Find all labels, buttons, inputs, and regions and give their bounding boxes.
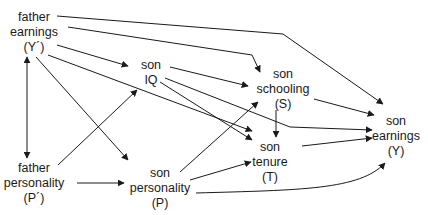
node-son-earnings: son earnings (Y) (372, 114, 420, 159)
node-label-line: son (252, 140, 287, 155)
node-label-line: personality (130, 181, 190, 196)
node-label-line: IQ (141, 73, 161, 88)
node-label-line: father (4, 161, 64, 176)
node-label-line: earnings (372, 129, 420, 144)
edge-son-schooling-to-son-earnings (314, 99, 374, 115)
edge-father-earnings-to-son-schooling (68, 27, 260, 72)
edge-father-personality-to-son-iq (58, 90, 137, 165)
node-father-personality: father personality (P´) (4, 161, 64, 206)
edge-son-iq-to-son-schooling (170, 67, 248, 86)
node-son-tenure: son tenure (T) (252, 140, 287, 185)
node-label-line: schooling (257, 82, 310, 97)
node-label-line: son (257, 67, 310, 82)
node-label-line: father (10, 10, 58, 25)
node-label-line: son (372, 114, 420, 129)
edge-son-iq-to-son-tenure (160, 82, 252, 140)
node-label-line: (P) (130, 196, 190, 211)
edge-son-personality-to-son-earnings (196, 163, 385, 193)
node-son-personality: son personality (P) (130, 166, 190, 211)
node-label-line: (Y´) (10, 40, 58, 55)
node-label-line: personality (4, 176, 64, 191)
node-label-line: son (130, 166, 190, 181)
edge-father-earnings-to-son-earnings (57, 16, 383, 104)
node-label-line: son (141, 58, 161, 73)
node-father-earnings: father earnings (Y´) (10, 10, 58, 55)
edge-son-personality-to-son-tenure (190, 162, 251, 180)
node-label-line: (P´) (4, 191, 64, 206)
node-son-iq: son IQ (141, 58, 161, 88)
node-son-schooling: son schooling (S) (257, 67, 310, 112)
edge-son-tenure-to-son-earnings (302, 138, 372, 146)
edge-father-earnings-to-son-personality (36, 57, 128, 160)
node-label-line: (S) (257, 97, 310, 112)
edge-son-personality-to-son-schooling (180, 102, 258, 172)
node-label-line: (T) (252, 170, 287, 185)
node-label-line: earnings (10, 25, 58, 40)
node-label-line: tenure (252, 155, 287, 170)
node-label-line: (Y) (372, 144, 420, 159)
